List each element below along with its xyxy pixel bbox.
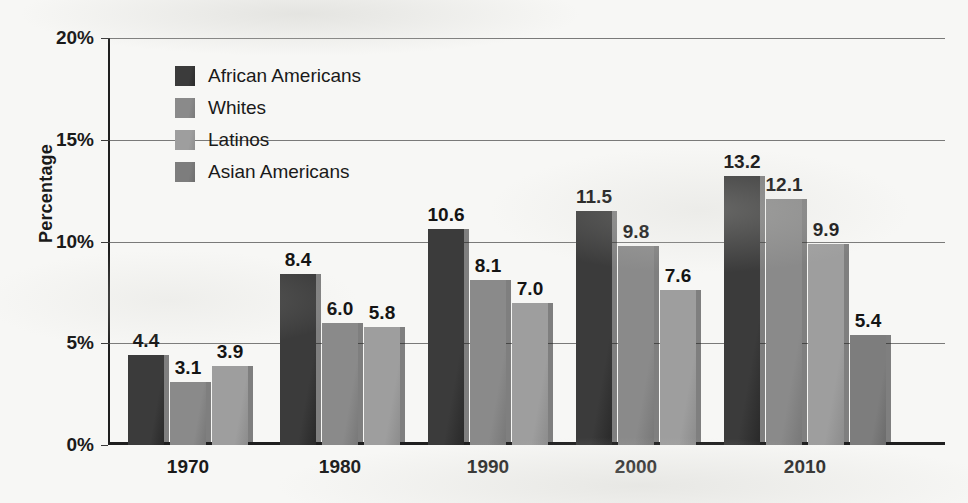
bar: 5.4 — [850, 335, 886, 445]
legend-swatch-icon — [175, 98, 195, 118]
legend-item-label: Whites — [208, 97, 266, 119]
bar-value-label: 3.1 — [175, 357, 201, 379]
bar-shadow — [316, 274, 321, 445]
bar-group: 10.68.17.01990 — [428, 38, 548, 445]
bar: 8.4 — [280, 274, 316, 445]
bar: 6.0 — [322, 323, 358, 445]
bar-value-label: 7.0 — [517, 278, 543, 300]
x-tick-label: 1990 — [467, 456, 509, 478]
bar-fill — [808, 244, 844, 445]
bar-value-label: 6.0 — [327, 298, 353, 320]
bar-value-label: 5.4 — [855, 310, 881, 332]
bar-shadow — [164, 355, 169, 445]
x-tick-label: 2000 — [615, 456, 657, 478]
bar-value-label: 4.4 — [133, 330, 159, 352]
bar-chart: Percentage 0%5%10%15%20% 4.43.13.919708.… — [0, 0, 968, 503]
bar-value-label: 7.6 — [665, 265, 691, 287]
bar-shadow — [464, 229, 469, 445]
legend-swatch-icon — [175, 130, 195, 150]
y-tick-mark — [101, 242, 108, 243]
bar-fill — [618, 246, 654, 445]
bar: 5.8 — [364, 327, 400, 445]
bar-value-label: 12.1 — [766, 174, 803, 196]
bar-shadow — [248, 366, 253, 445]
bar: 7.0 — [512, 303, 548, 445]
y-tick-label: 15% — [38, 129, 94, 151]
y-tick-label: 20% — [38, 27, 94, 49]
y-tick-mark — [101, 38, 108, 39]
bar-value-label: 9.8 — [623, 221, 649, 243]
bar-shadow — [654, 246, 659, 445]
bar-shadow — [548, 303, 553, 445]
legend-item-label: Asian Americans — [208, 161, 350, 183]
bar-fill — [364, 327, 400, 445]
bar-fill — [724, 176, 760, 445]
bar: 9.9 — [808, 244, 844, 445]
y-tick-mark — [101, 343, 108, 344]
bar-value-label: 8.4 — [285, 249, 311, 271]
bar-value-label: 10.6 — [428, 204, 465, 226]
bar-shadow — [358, 323, 363, 445]
bar-value-label: 8.1 — [475, 255, 501, 277]
y-tick-label: 0% — [38, 434, 94, 456]
legend-item: African Americans — [175, 62, 361, 90]
bar: 9.8 — [618, 246, 654, 445]
bar-fill — [470, 280, 506, 445]
bar-fill — [576, 211, 612, 445]
legend-item-label: Latinos — [208, 129, 269, 151]
bar-group: 11.59.87.62000 — [576, 38, 696, 445]
bar-value-label: 3.9 — [217, 341, 243, 363]
bar: 4.4 — [128, 355, 164, 445]
bar-value-label: 5.8 — [369, 302, 395, 324]
legend-swatch-icon — [175, 66, 195, 86]
bar-value-label: 13.2 — [724, 151, 761, 173]
bar-value-label: 11.5 — [576, 186, 612, 208]
bar-value-label: 9.9 — [813, 219, 839, 241]
x-tick-label: 1980 — [319, 456, 361, 478]
x-tick-label: 1970 — [167, 456, 209, 478]
bar-shadow — [886, 335, 891, 445]
legend-item: Whites — [175, 94, 361, 122]
bar: 10.6 — [428, 229, 464, 445]
bar-fill — [428, 229, 464, 445]
bar-fill — [660, 290, 696, 445]
y-tick-label: 5% — [38, 332, 94, 354]
bar-fill — [512, 303, 548, 445]
bar-shadow — [696, 290, 701, 445]
bar: 7.6 — [660, 290, 696, 445]
bar: 13.2 — [724, 176, 760, 445]
x-tick-label: 2010 — [784, 456, 826, 478]
bar-fill — [280, 274, 316, 445]
legend: African AmericansWhitesLatinosAsian Amer… — [175, 62, 361, 190]
legend-item: Asian Americans — [175, 158, 361, 186]
bar-shadow — [506, 280, 511, 445]
legend-item-label: African Americans — [208, 65, 361, 87]
y-tick-mark — [101, 445, 108, 446]
bar-shadow — [760, 176, 765, 445]
legend-item: Latinos — [175, 126, 361, 154]
bar-shadow — [802, 199, 807, 445]
bar: 3.9 — [212, 366, 248, 445]
y-tick-label: 10% — [38, 231, 94, 253]
bar-shadow — [612, 211, 617, 445]
bar: 3.1 — [170, 382, 206, 445]
bar: 8.1 — [470, 280, 506, 445]
bar-fill — [322, 323, 358, 445]
bar-shadow — [400, 327, 405, 445]
bar-fill — [170, 382, 206, 445]
y-tick-mark — [101, 140, 108, 141]
bar-group: 13.212.19.95.42010 — [724, 38, 886, 445]
bar-shadow — [206, 382, 211, 445]
bar-fill — [850, 335, 886, 445]
bar-fill — [766, 199, 802, 445]
bar: 11.5 — [576, 211, 612, 445]
bar-fill — [212, 366, 248, 445]
legend-swatch-icon — [175, 162, 195, 182]
bar: 12.1 — [766, 199, 802, 445]
bar-shadow — [844, 244, 849, 445]
bar-fill — [128, 355, 164, 445]
